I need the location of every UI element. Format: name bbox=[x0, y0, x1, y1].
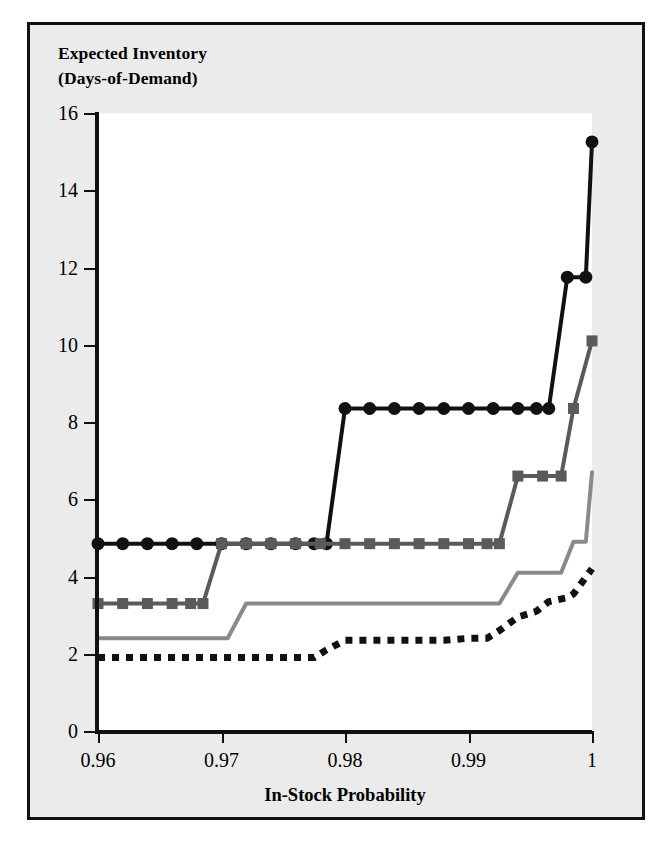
series-marker bbox=[142, 598, 153, 609]
y-tick-mark bbox=[84, 731, 95, 733]
series-marker bbox=[537, 471, 548, 482]
series-marker bbox=[290, 538, 301, 549]
plot-area: 0246810121416 0.960.970.980.991 In-Stock… bbox=[98, 113, 592, 731]
series-marker bbox=[437, 402, 450, 415]
y-tick-label: 12 bbox=[58, 256, 78, 279]
series-marker bbox=[586, 135, 599, 148]
series-marker bbox=[265, 538, 276, 549]
series-marker bbox=[166, 537, 179, 550]
y-tick-mark bbox=[84, 268, 95, 270]
series-marker bbox=[579, 271, 592, 284]
series-marker bbox=[241, 538, 252, 549]
series-marker bbox=[413, 402, 426, 415]
y-tick-label: 16 bbox=[58, 102, 78, 125]
y-tick-label: 4 bbox=[68, 565, 78, 588]
series-marker bbox=[530, 402, 543, 415]
y-tick-mark bbox=[84, 113, 95, 115]
series-marker bbox=[556, 471, 567, 482]
x-tick-label: 0.96 bbox=[81, 749, 116, 772]
series-marker bbox=[339, 402, 352, 415]
series-marker bbox=[463, 538, 474, 549]
y-tick-label: 2 bbox=[68, 642, 78, 665]
x-tick-label: 0.97 bbox=[204, 749, 239, 772]
y-tick-label: 10 bbox=[58, 333, 78, 356]
y-tick-mark bbox=[84, 654, 95, 656]
series-marker bbox=[190, 537, 203, 550]
series-marker bbox=[512, 471, 523, 482]
x-tick-label: 0.99 bbox=[451, 749, 486, 772]
series-line bbox=[98, 472, 592, 638]
y-tick-label: 6 bbox=[68, 488, 78, 511]
y-tick-mark bbox=[84, 499, 95, 501]
series-marker bbox=[462, 402, 475, 415]
series-marker bbox=[340, 538, 351, 549]
series-marker bbox=[185, 598, 196, 609]
series-marker bbox=[389, 538, 400, 549]
x-axis-title: In-Stock Probability bbox=[98, 785, 592, 806]
x-tick-mark bbox=[592, 731, 594, 743]
x-axis-line bbox=[95, 730, 592, 734]
y-tick-label: 8 bbox=[68, 411, 78, 434]
series-4-black-dotted-line bbox=[98, 569, 592, 658]
x-tick-label: 0.98 bbox=[328, 749, 363, 772]
y-axis-line bbox=[95, 112, 99, 732]
series-marker bbox=[388, 402, 401, 415]
y-tick-label: 0 bbox=[68, 720, 78, 743]
series-line bbox=[98, 569, 592, 658]
series-marker bbox=[141, 537, 154, 550]
chart-figure-frame: Expected Inventory (Days-of-Demand) 0246… bbox=[27, 22, 645, 820]
series-marker bbox=[197, 598, 208, 609]
series-1-black-circles bbox=[92, 135, 599, 550]
series-marker bbox=[494, 538, 505, 549]
series-marker bbox=[116, 537, 129, 550]
series-marker bbox=[542, 402, 555, 415]
x-tick-label: 1 bbox=[587, 749, 597, 772]
series-marker bbox=[568, 403, 579, 414]
y-tick-mark bbox=[84, 190, 95, 192]
series-marker bbox=[363, 402, 376, 415]
series-marker bbox=[561, 271, 574, 284]
series-marker bbox=[216, 538, 227, 549]
series-2-dark-gray-squares bbox=[93, 335, 598, 609]
y-tick-mark bbox=[84, 577, 95, 579]
y-tick-mark bbox=[84, 422, 95, 424]
series-marker bbox=[587, 335, 598, 346]
series-marker bbox=[315, 538, 326, 549]
series-marker bbox=[364, 538, 375, 549]
series-marker bbox=[487, 402, 500, 415]
series-marker bbox=[511, 402, 524, 415]
series-marker bbox=[117, 598, 128, 609]
series-marker bbox=[482, 538, 493, 549]
series-marker bbox=[438, 538, 449, 549]
series-container bbox=[98, 113, 592, 731]
chart-y-axis-title: Expected Inventory (Days-of-Demand) bbox=[58, 41, 207, 91]
y-tick-mark bbox=[84, 345, 95, 347]
series-marker bbox=[167, 598, 178, 609]
series-3-light-gray-line bbox=[98, 472, 592, 638]
y-tick-label: 14 bbox=[58, 179, 78, 202]
series-marker bbox=[414, 538, 425, 549]
